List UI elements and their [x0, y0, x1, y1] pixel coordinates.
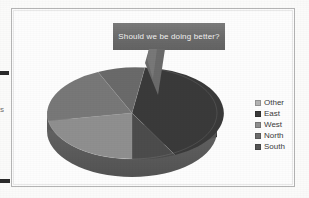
chart-legend: Other East West North South — [255, 97, 303, 152]
legend-label: East — [264, 108, 280, 119]
legend-item-east[interactable]: East — [255, 108, 303, 119]
legend-item-south[interactable]: South — [255, 141, 303, 152]
callout-box[interactable]: Should we be doing better? — [113, 23, 225, 50]
page-edge-fragment-text: s — [0, 104, 8, 116]
page-edge-fragment-top — [0, 71, 9, 75]
legend-item-north[interactable]: North — [255, 130, 303, 141]
legend-swatch-icon — [255, 111, 261, 117]
legend-label: South — [264, 141, 285, 152]
callout-tail-icon — [113, 49, 225, 97]
legend-label: Other — [264, 97, 284, 108]
legend-label: West — [264, 119, 282, 130]
page-edge-fragment-bottom — [0, 179, 10, 183]
chart-frame: Should we be doing better? Other East We… — [11, 8, 295, 187]
legend-swatch-icon — [255, 100, 261, 106]
legend-item-other[interactable]: Other — [255, 97, 303, 108]
legend-swatch-icon — [255, 144, 261, 150]
callout-annotation[interactable]: Should we be doing better? — [113, 23, 225, 50]
callout-text: Should we be doing better? — [118, 32, 219, 41]
legend-label: North — [264, 130, 284, 141]
legend-swatch-icon — [255, 133, 261, 139]
legend-item-west[interactable]: West — [255, 119, 303, 130]
legend-swatch-icon — [255, 122, 261, 128]
